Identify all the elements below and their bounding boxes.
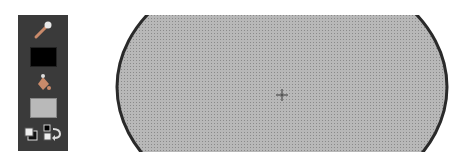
ellipse-shape[interactable] [117,15,447,152]
drawing-canvas[interactable] [85,15,459,152]
stroke-color-swatch[interactable] [30,47,57,67]
default-colors-icon[interactable] [24,126,38,140]
fill-color-swatch[interactable] [30,98,57,118]
swap-colors-icon[interactable] [43,124,63,142]
eyedropper-icon[interactable] [32,19,54,41]
color-tool-panel [18,15,68,151]
paint-bucket-icon[interactable] [32,72,54,94]
